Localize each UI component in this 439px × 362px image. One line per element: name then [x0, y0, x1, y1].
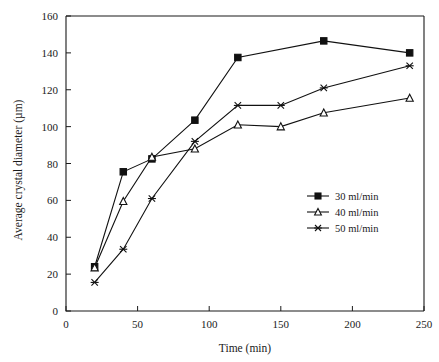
x-axis-title: Time (min) — [219, 342, 271, 355]
marker-square — [315, 193, 321, 199]
x-tick-label: 150 — [273, 318, 290, 330]
line-chart: 020406080100120140160 050100150200250 30… — [0, 0, 439, 362]
x-tick-label: 250 — [416, 318, 433, 330]
legend-label: 40 ml/min — [335, 207, 379, 218]
marker-square — [235, 54, 241, 60]
y-tick-label: 160 — [42, 10, 59, 22]
marker-square — [406, 50, 412, 56]
y-tick-label: 100 — [42, 121, 59, 133]
legend-label: 30 ml/min — [335, 191, 379, 202]
x-tick-label: 50 — [132, 318, 144, 330]
y-tick-label: 0 — [53, 305, 59, 317]
marker-square — [192, 117, 198, 123]
y-tick-label: 140 — [42, 47, 59, 59]
chart-legend: 30 ml/min40 ml/min50 ml/min — [307, 191, 379, 234]
y-tick-label: 120 — [42, 84, 59, 96]
legend-label: 50 ml/min — [335, 223, 379, 234]
marker-square — [120, 169, 126, 175]
y-tick-label: 80 — [47, 158, 59, 170]
y-tick-label: 40 — [47, 231, 59, 243]
y-axis-title: Average crystal diameter (µm) — [12, 99, 25, 240]
x-tick-label: 0 — [63, 318, 69, 330]
y-tick-label: 20 — [47, 268, 59, 280]
y-tick-label: 60 — [47, 194, 59, 206]
marker-square — [321, 38, 327, 44]
x-tick-label: 200 — [344, 318, 361, 330]
chart-container: 020406080100120140160 050100150200250 30… — [0, 0, 439, 362]
x-tick-label: 100 — [201, 318, 218, 330]
